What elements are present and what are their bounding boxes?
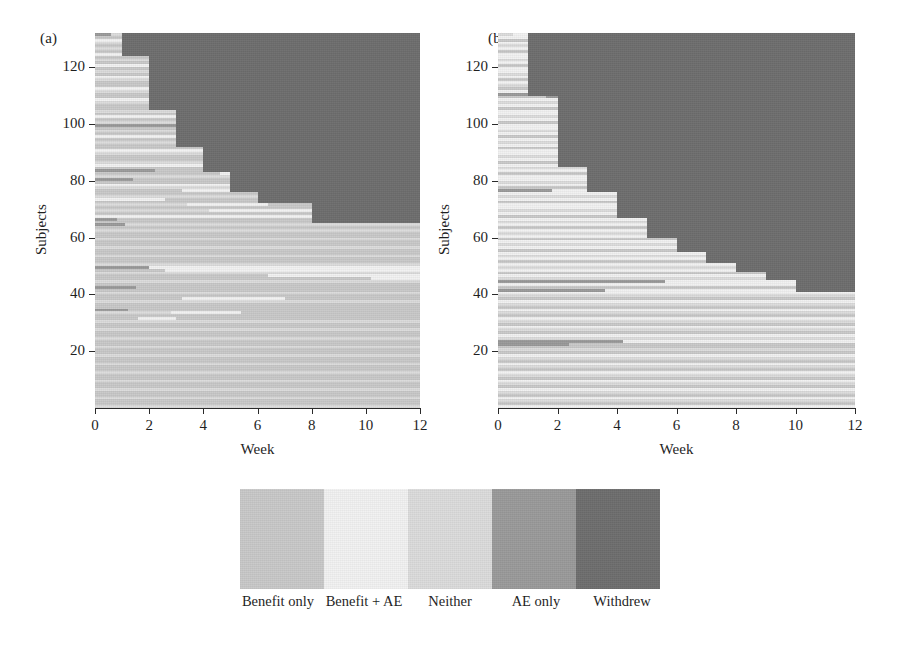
y-tick	[492, 181, 498, 182]
y-axis-title: Subjects	[33, 204, 50, 255]
y-tick-label: 80	[446, 172, 488, 189]
x-tick-label: 0	[75, 417, 115, 434]
legend-swatches	[240, 489, 660, 589]
y-tick	[492, 294, 498, 295]
x-tick-label: 4	[597, 417, 637, 434]
panel-a: (a) 024681012Week20406080100120Subjects	[0, 0, 450, 480]
x-tick	[95, 408, 96, 414]
legend-swatch-grain	[492, 489, 576, 589]
y-tick-label: 20	[43, 342, 85, 359]
y-tick-label: 80	[43, 172, 85, 189]
x-tick	[312, 408, 313, 414]
x-tick-label: 10	[346, 417, 386, 434]
y-tick-label: 40	[43, 285, 85, 302]
y-tick	[492, 67, 498, 68]
x-tick-label: 12	[835, 417, 875, 434]
x-tick-label: 2	[538, 417, 578, 434]
x-tick-label: 0	[478, 417, 518, 434]
legend-swatch	[240, 489, 324, 589]
x-tick	[558, 408, 559, 414]
x-tick	[736, 408, 737, 414]
panel-b: (b) 024681012Week20406080100120Subjects	[440, 0, 900, 480]
legend-swatch	[408, 489, 492, 589]
y-tick	[89, 238, 95, 239]
y-tick-label: 100	[43, 115, 85, 132]
y-tick	[492, 238, 498, 239]
y-tick	[89, 124, 95, 125]
legend: Benefit onlyBenefit + AENeitherAE onlyWi…	[235, 489, 665, 657]
legend-swatch	[324, 489, 408, 589]
x-tick	[149, 408, 150, 414]
legend-swatch-grain	[576, 489, 660, 589]
legend-label: AE only	[493, 593, 579, 610]
y-tick	[89, 294, 95, 295]
legend-swatch	[492, 489, 576, 589]
x-tick	[617, 408, 618, 414]
y-tick	[89, 351, 95, 352]
legend-label: Neither	[407, 593, 493, 610]
x-tick-label: 6	[238, 417, 278, 434]
y-axis-title: Subjects	[436, 204, 453, 255]
x-tick	[203, 408, 204, 414]
y-tick-label: 100	[446, 115, 488, 132]
x-tick-label: 2	[129, 417, 169, 434]
x-tick-label: 10	[776, 417, 816, 434]
y-tick	[89, 67, 95, 68]
y-tick-label: 20	[446, 342, 488, 359]
x-tick	[855, 408, 856, 414]
x-tick	[677, 408, 678, 414]
legend-swatch-grain	[324, 489, 408, 589]
y-tick	[492, 351, 498, 352]
x-tick-label: 4	[183, 417, 223, 434]
y-tick-label: 120	[43, 58, 85, 75]
y-tick-label: 40	[446, 285, 488, 302]
x-tick-label: 8	[292, 417, 332, 434]
panel-b-heatmap	[498, 33, 855, 408]
legend-labels: Benefit onlyBenefit + AENeitherAE onlyWi…	[235, 593, 665, 610]
x-tick-label: 6	[657, 417, 697, 434]
legend-swatch	[576, 489, 660, 589]
x-axis-title: Week	[647, 441, 707, 458]
x-tick	[420, 408, 421, 414]
x-tick	[366, 408, 367, 414]
legend-swatch-grain	[408, 489, 492, 589]
panel-a-heatmap	[95, 33, 420, 408]
legend-label: Benefit only	[235, 593, 321, 610]
x-axis-title: Week	[228, 441, 288, 458]
y-tick	[492, 124, 498, 125]
panel-a-tag: (a)	[40, 30, 57, 47]
x-tick	[498, 408, 499, 414]
x-tick	[258, 408, 259, 414]
x-tick-label: 12	[400, 417, 440, 434]
x-tick	[796, 408, 797, 414]
legend-label: Benefit + AE	[321, 593, 407, 610]
legend-label: Withdrew	[579, 593, 665, 610]
y-tick	[89, 181, 95, 182]
figure-container: (a) 024681012Week20406080100120Subjects …	[0, 0, 900, 657]
y-tick-label: 120	[446, 58, 488, 75]
legend-swatch-grain	[240, 489, 324, 589]
x-tick-label: 8	[716, 417, 756, 434]
